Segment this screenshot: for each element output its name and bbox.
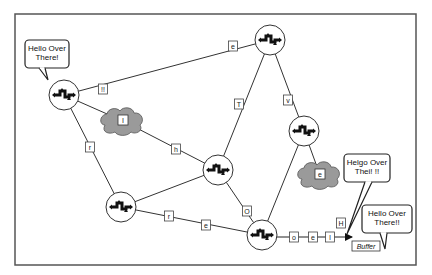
bubble-text: Hello Over (368, 209, 406, 218)
svg-text:e: e (204, 222, 208, 229)
cloud-label: e (318, 171, 322, 178)
edge-label: h (172, 144, 181, 154)
edge-label: r (86, 142, 95, 152)
bubble-text: There! (35, 53, 58, 62)
edge-label: l (326, 232, 335, 242)
link-line (262, 131, 304, 235)
svg-text:O: O (244, 208, 250, 215)
svg-text:!!: !! (101, 86, 105, 93)
edge-label: r (165, 211, 174, 221)
cloud-icon: I (101, 108, 143, 136)
edge-label: v (284, 95, 293, 105)
router-node[interactable] (255, 25, 285, 55)
svg-text:h: h (174, 146, 178, 153)
edge-label: e (309, 232, 318, 242)
svg-text:H: H (338, 220, 343, 227)
router-node[interactable] (106, 192, 136, 222)
svg-text:v: v (286, 97, 290, 104)
link-line (218, 40, 270, 170)
link-line (121, 170, 218, 207)
edge-label: T (235, 99, 244, 109)
edge-label: H (337, 218, 346, 228)
link-line (121, 207, 262, 235)
edge-label: o (290, 232, 299, 242)
link-line (64, 40, 270, 95)
edge-label: O (243, 206, 252, 216)
router-node[interactable] (203, 155, 233, 185)
bubble-text: Hello Over (28, 44, 66, 53)
router-node[interactable] (289, 116, 319, 146)
svg-text:e: e (231, 43, 235, 50)
edge-label: e (202, 220, 211, 230)
speech-bubble: Hello OverThere! (25, 40, 69, 80)
buffer-label: Buffer (357, 243, 376, 250)
router-node[interactable] (49, 80, 79, 110)
edge-label: !! (99, 84, 108, 94)
svg-text:o: o (292, 234, 296, 241)
network-diagram: Ie !!erhTvOreoelHBuffer Hello OverThere!… (0, 0, 432, 275)
bubble-text: There!! (374, 218, 399, 227)
cloud-label: I (122, 117, 124, 124)
router-node[interactable] (247, 220, 277, 250)
svg-text:T: T (237, 101, 242, 108)
diagram-frame (15, 14, 416, 265)
bubble-text: Thei! !! (355, 167, 379, 176)
edge-label: e (229, 41, 238, 51)
bubble-text: Helgo Over (347, 158, 388, 167)
cloud-icon: e (298, 162, 340, 190)
svg-text:e: e (311, 234, 315, 241)
